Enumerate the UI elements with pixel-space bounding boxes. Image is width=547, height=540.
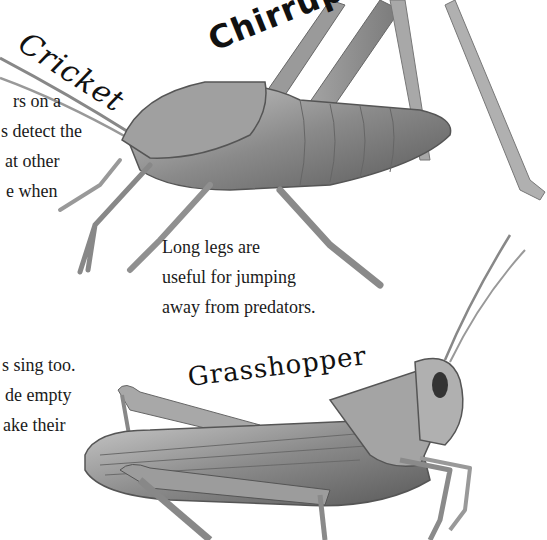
text-line: at other — [0, 146, 82, 176]
cricket-body-text: rs on a s detect the at other e when — [0, 86, 82, 206]
text-line: de empty — [0, 380, 76, 410]
text-line: rs on a — [0, 86, 82, 116]
text-line: s sing too. — [0, 350, 76, 380]
text-line: ake their — [0, 410, 76, 440]
text-line: e when — [0, 176, 82, 206]
legs-caption: Long legs are useful for jumping away fr… — [162, 232, 315, 322]
caption-line: away from predators. — [162, 292, 315, 322]
text-line: s detect the — [0, 116, 82, 146]
caption-line: useful for jumping — [162, 262, 315, 292]
caption-line: Long legs are — [162, 232, 315, 262]
grasshopper-body-text: s sing too. de empty ake their — [0, 350, 76, 440]
